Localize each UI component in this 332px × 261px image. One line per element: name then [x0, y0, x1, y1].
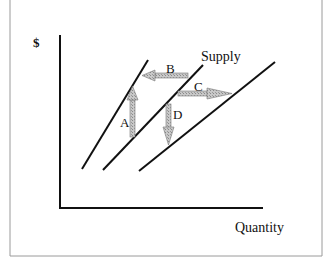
supply-curve-right [139, 62, 275, 171]
supply-curve-left [82, 60, 148, 169]
arrow-d-label: D [173, 108, 182, 121]
arrow-a-label: A [120, 116, 129, 129]
arrow-c-label: C [194, 80, 203, 93]
arrow-b-left [142, 70, 188, 81]
supply-curve-original [103, 65, 203, 170]
supply-label: Supply [201, 50, 241, 64]
arrow-c-right [178, 88, 232, 99]
x-axis-label: Quantity [235, 221, 284, 235]
arrow-b-label: B [166, 62, 175, 75]
y-axis-label: $ [33, 36, 40, 49]
